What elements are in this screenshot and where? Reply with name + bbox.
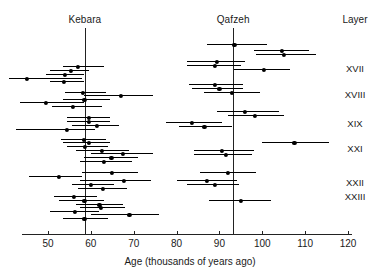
data-point-row [0, 54, 386, 55]
x-tick-label: 120 [340, 238, 357, 249]
data-point-row [0, 92, 386, 93]
x-tick-label: 50 [42, 238, 53, 249]
x-tick [305, 231, 306, 234]
chart-canvas: KebaraQafzeh 5060708090100110120 Age (th… [0, 0, 386, 277]
layer-label-xxi: XXI [347, 143, 362, 154]
data-point-marker [24, 76, 28, 80]
error-bar [67, 146, 108, 147]
x-tick [91, 231, 92, 234]
data-point-marker [282, 52, 286, 56]
data-point-row [0, 70, 386, 71]
data-point-row [0, 200, 386, 201]
x-axis-line [22, 234, 352, 235]
error-bar [207, 44, 267, 45]
data-point-marker [226, 170, 230, 174]
error-bar [54, 196, 97, 197]
data-point-marker [102, 159, 106, 163]
data-point-row [0, 99, 386, 100]
error-bar [91, 214, 160, 215]
data-point-row [0, 211, 386, 212]
layer-label-xxii: XXII [346, 177, 364, 188]
data-point-marker [217, 86, 221, 90]
data-point-marker [202, 124, 206, 128]
x-tick-label: 80 [171, 238, 182, 249]
x-tick-label: 110 [297, 238, 313, 249]
data-point-row [0, 184, 386, 185]
error-bar [52, 106, 101, 107]
data-point-row [0, 150, 386, 151]
error-bar [80, 161, 131, 162]
data-point-row [0, 207, 386, 208]
data-point-row [0, 161, 386, 162]
x-tick [177, 231, 178, 234]
layer-label-xix: XIX [347, 118, 362, 129]
data-point-marker [57, 174, 61, 178]
error-bar [194, 154, 252, 155]
data-point-row [0, 65, 386, 66]
x-tick-label: 60 [85, 238, 96, 249]
data-point-row [0, 172, 386, 173]
data-point-marker [71, 104, 75, 108]
x-tick [219, 231, 220, 234]
data-point-marker [83, 144, 87, 148]
data-point-row [0, 139, 386, 140]
data-point-marker [243, 109, 247, 113]
data-point-row [0, 117, 386, 118]
data-point-marker [127, 212, 131, 216]
data-point-row [0, 95, 386, 96]
error-bar [256, 54, 316, 55]
data-point-marker [204, 178, 208, 182]
data-point-marker [63, 72, 67, 76]
x-tick-label: 90 [214, 238, 225, 249]
data-point-row [0, 146, 386, 147]
data-point-marker [224, 152, 228, 156]
data-point-marker [232, 42, 236, 46]
error-bar [9, 78, 82, 79]
data-point-marker [65, 127, 69, 131]
data-point-marker [189, 120, 193, 124]
error-bar [29, 176, 83, 177]
layer-label-xxiii: XXIII [345, 191, 366, 202]
x-tick [134, 231, 135, 234]
site-label-qafzeh: Qafzeh [217, 14, 250, 25]
x-axis-title: Age (thousands of years ago) [124, 256, 255, 267]
data-point-marker [82, 216, 86, 220]
data-point-marker [82, 97, 86, 101]
error-bar [80, 207, 125, 208]
data-point-row [0, 180, 386, 181]
error-bar [20, 102, 84, 103]
data-point-row [0, 66, 386, 67]
x-tick [48, 231, 49, 234]
data-point-row [0, 111, 386, 112]
data-point-row [0, 142, 386, 143]
data-point-row [0, 81, 386, 82]
data-point-row [0, 196, 386, 197]
data-point-row [0, 204, 386, 205]
error-bar [194, 150, 254, 151]
data-point-row [0, 176, 386, 177]
data-point-row [0, 84, 386, 85]
error-bar [63, 66, 104, 67]
x-tick-label: 70 [128, 238, 139, 249]
error-bar [16, 129, 95, 130]
data-point-marker [99, 205, 103, 209]
data-point-row [0, 129, 386, 130]
data-point-marker [72, 209, 76, 213]
error-bar [217, 111, 279, 112]
data-point-marker [72, 194, 76, 198]
x-tick [262, 231, 263, 234]
data-point-row [0, 218, 386, 219]
data-point-row [0, 214, 386, 215]
data-point-row [0, 88, 386, 89]
data-point-row [0, 50, 386, 51]
data-point-row [0, 122, 386, 123]
layer-label-xviii: XVIII [345, 89, 366, 100]
data-point-marker [119, 93, 123, 97]
data-point-marker [292, 140, 296, 144]
data-point-marker [44, 100, 48, 104]
data-point-marker [239, 198, 243, 202]
data-point-row [0, 44, 386, 45]
data-point-row [0, 157, 386, 158]
x-tick-label: 100 [254, 238, 271, 249]
data-point-row [0, 102, 386, 103]
